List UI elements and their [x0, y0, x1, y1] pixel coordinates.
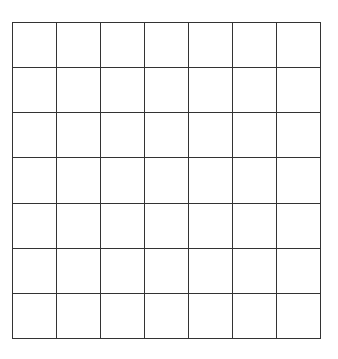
- grid-cell: [277, 204, 321, 249]
- grid-cell: [145, 113, 189, 158]
- grid-cell: [101, 249, 145, 294]
- grid-cell: [189, 294, 233, 339]
- grid-cell: [57, 23, 101, 68]
- grid-cell: [57, 158, 101, 203]
- grid-cell: [233, 294, 277, 339]
- grid-cell: [145, 294, 189, 339]
- grid-cell: [277, 113, 321, 158]
- grid-cell: [57, 249, 101, 294]
- grid-cell: [233, 23, 277, 68]
- grid-cell: [101, 294, 145, 339]
- grid-cell: [101, 158, 145, 203]
- grid-cell: [101, 23, 145, 68]
- grid-cell: [13, 204, 57, 249]
- grid-cell: [145, 23, 189, 68]
- grid-cell: [189, 158, 233, 203]
- grid-cell: [277, 158, 321, 203]
- grid-cell: [57, 294, 101, 339]
- grid-cell: [233, 204, 277, 249]
- grid-cell: [277, 249, 321, 294]
- grid-cell: [145, 68, 189, 113]
- grid-cell: [57, 68, 101, 113]
- grid-cell: [189, 23, 233, 68]
- grid-cell: [13, 249, 57, 294]
- grid-cell: [13, 158, 57, 203]
- grid-cell: [57, 113, 101, 158]
- grid-cell: [13, 68, 57, 113]
- grid-cell: [101, 68, 145, 113]
- grid-cell: [277, 68, 321, 113]
- grid-cell: [189, 68, 233, 113]
- grid-cell: [145, 158, 189, 203]
- grid-cell: [233, 113, 277, 158]
- grid-cell: [233, 158, 277, 203]
- grid-cell: [277, 294, 321, 339]
- grid-cell: [277, 23, 321, 68]
- grid-cell: [145, 249, 189, 294]
- grid-cell: [189, 249, 233, 294]
- grid-cell: [145, 204, 189, 249]
- grid-cell: [233, 68, 277, 113]
- grid-cell: [189, 113, 233, 158]
- grid-cell: [233, 249, 277, 294]
- grid-cell: [101, 204, 145, 249]
- grid: [12, 22, 321, 339]
- grid-cell: [13, 294, 57, 339]
- grid-cell: [57, 204, 101, 249]
- grid-cell: [101, 113, 145, 158]
- grid-cell: [189, 204, 233, 249]
- grid-cell: [13, 23, 57, 68]
- grid-cell: [13, 113, 57, 158]
